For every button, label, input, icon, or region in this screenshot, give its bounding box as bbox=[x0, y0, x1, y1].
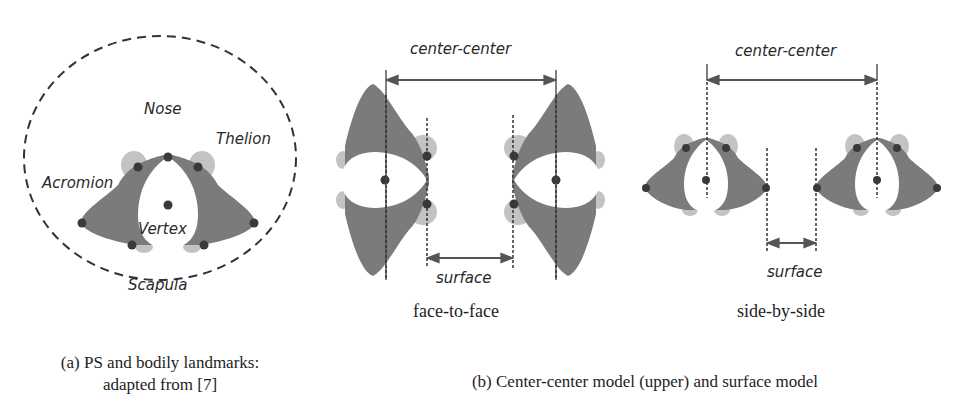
landmark-acromion-label: Acromion bbox=[42, 174, 113, 192]
landmark-scapula-label: Scapula bbox=[128, 276, 187, 294]
sbs-surface-label: surface bbox=[767, 263, 822, 281]
f2f-title: face-to-face bbox=[413, 301, 499, 322]
landmark-thelion-label: Thelion bbox=[216, 130, 271, 148]
figure: Nose Thelion Acromion Vertex Scapula (a)… bbox=[0, 0, 976, 418]
landmark-nose-label: Nose bbox=[144, 100, 181, 118]
f2f-surface-label: surface bbox=[436, 269, 491, 287]
f2f-center-center-label: center-center bbox=[410, 40, 511, 58]
caption-a-line2: adapted from [7] bbox=[10, 374, 310, 396]
sbs-center-center-label: center-center bbox=[735, 42, 836, 60]
caption-a: (a) PS and bodily landmarks: adapted fro… bbox=[10, 352, 310, 396]
sbs-title: side-by-side bbox=[737, 301, 825, 322]
caption-b: (b) Center-center model (upper) and surf… bbox=[395, 371, 895, 393]
caption-a-line1: (a) PS and bodily landmarks: bbox=[10, 352, 310, 374]
landmark-vertex-label: Vertex bbox=[138, 220, 187, 238]
